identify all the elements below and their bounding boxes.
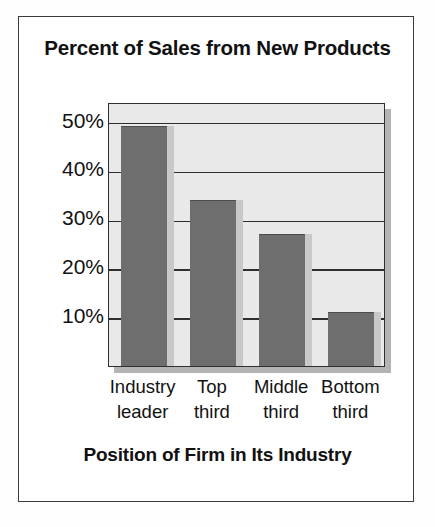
chart-title: Percent of Sales from New Products	[0, 36, 435, 60]
plot-area	[108, 103, 385, 367]
gridline-50	[109, 123, 384, 125]
x-axis-title: Position of Firm in Its Industry	[0, 444, 435, 466]
bar-industry-leader[interactable]	[121, 126, 167, 366]
y-tick-label: 50%	[38, 109, 104, 133]
y-tick-label: 30%	[38, 206, 104, 230]
y-tick-label: 40%	[38, 157, 104, 181]
x-tick-label: Bottomthird	[308, 374, 393, 424]
bar-middle-third[interactable]	[259, 234, 305, 366]
x-tick-label-line: third	[308, 399, 393, 424]
bar-top-third[interactable]	[190, 200, 236, 366]
x-axis: IndustryleaderTopthirdMiddlethirdBottomt…	[108, 374, 385, 432]
bar-bottom-third[interactable]	[328, 312, 374, 366]
x-tick-label-line: Bottom	[308, 374, 393, 399]
y-tick-label: 20%	[38, 255, 104, 279]
y-axis: 50%40%30%20%10%	[34, 103, 104, 367]
chart-figure: Percent of Sales from New Products 50%40…	[0, 0, 435, 527]
y-tick-label: 10%	[38, 304, 104, 328]
